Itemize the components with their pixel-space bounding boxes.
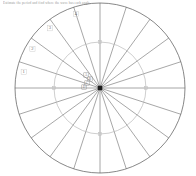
diagram-page: Estimate the period and find where the w… [0,0,196,176]
spoke-line [100,38,169,88]
outer-tick-label: 1 [23,69,26,74]
spoke-line [100,88,169,138]
outer-tick-label-group: 1234 [21,11,78,75]
outer-tick-label: 2 [31,46,34,51]
center-point [98,86,103,91]
spoke-line [100,19,150,88]
outer-tick-label: 3 [49,25,52,30]
spoke-line [50,19,100,88]
center-mark-label: B [89,77,92,81]
spoke-line [100,88,150,157]
outer-tick-label: 4 [75,11,78,16]
spoke-line [50,88,100,157]
polar-diagram-svg: 1234 ABCD [0,0,196,176]
center-mark-label: A [85,73,88,77]
center-mark-label: D [83,85,86,89]
polar-diagram-figure: 1234 ABCD [0,0,196,176]
spoke-line [31,88,100,138]
